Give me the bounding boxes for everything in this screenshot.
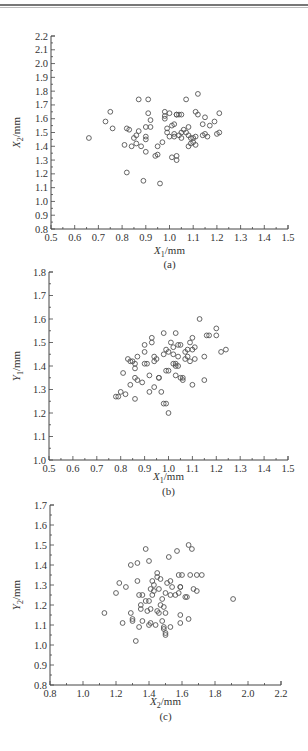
y-tick-label: 1.0 (35, 196, 48, 207)
data-point-marker (108, 109, 113, 114)
x-tick-label: 1.3 (234, 232, 247, 243)
data-point-marker (140, 619, 145, 624)
data-point-marker (202, 378, 207, 383)
data-point-marker (135, 354, 140, 359)
data-point-marker (161, 331, 166, 336)
data-point-marker (199, 573, 204, 578)
y-tick-label: 1.3 (35, 155, 48, 166)
x-tick-label: 0.9 (138, 463, 151, 474)
y-tick-label: 1.7 (34, 500, 47, 511)
data-point-marker (149, 340, 154, 345)
data-point-marker (135, 561, 140, 566)
y-tick-label: 1.2 (33, 408, 46, 419)
data-point-marker (212, 119, 217, 124)
data-point-marker (180, 573, 185, 578)
x-tick-label: 1.0 (163, 232, 176, 243)
data-point-marker (163, 611, 168, 616)
data-point-marker (143, 149, 148, 154)
data-point-marker (167, 134, 172, 139)
y-tick-label: 1.5 (33, 337, 46, 348)
data-point-marker (168, 625, 173, 630)
data-point-marker (197, 317, 202, 322)
y-axis-title: Y1/mm (10, 350, 25, 381)
x-tick-label: 0.6 (68, 232, 81, 243)
data-point-marker (137, 625, 142, 630)
data-point-marker (169, 340, 174, 345)
data-point-marker (202, 354, 207, 359)
data-point-marker (103, 119, 108, 124)
y-tick-label: 1.7 (33, 290, 46, 301)
data-point-marker (139, 144, 144, 149)
data-point-marker (128, 563, 133, 568)
data-point-marker (178, 613, 183, 618)
x-tick-label: 1.2 (210, 232, 223, 243)
data-point-marker (160, 140, 165, 145)
data-point-marker (171, 352, 176, 357)
data-point-marker (170, 155, 175, 160)
y-tick-label: 1.7 (35, 99, 48, 110)
data-point-marker (140, 380, 145, 385)
x-axis-title: X2/mm (149, 695, 181, 710)
data-point-marker (87, 136, 92, 141)
y-tick-label: 1.0 (34, 640, 47, 651)
panel-caption: (a) (163, 258, 176, 271)
data-point-marker (122, 143, 127, 148)
y-tick-label: 2.1 (35, 44, 48, 55)
scatter-panel-c: 0.81.01.21.41.61.82.02.20.80.91.01.11.21… (10, 500, 288, 724)
data-point-marker (173, 331, 178, 336)
data-point-marker (140, 593, 145, 598)
data-point-marker (147, 599, 152, 604)
data-point-marker (141, 178, 146, 183)
data-point-marker (143, 547, 148, 552)
data-point-marker (170, 585, 175, 590)
x-tick-label: 0.8 (116, 232, 129, 243)
x-tick-label: 1.2 (109, 688, 122, 699)
data-point-marker (143, 125, 148, 130)
scatter-panel-b: 0.50.60.70.80.91.01.11.21.31.41.51.01.11… (10, 267, 295, 499)
axis-lines (49, 272, 288, 460)
data-point-marker (163, 591, 168, 596)
data-point-marker (203, 115, 208, 120)
y-tick-label: 0.9 (34, 660, 47, 671)
x-tick-label: 0.9 (139, 232, 152, 243)
data-point-marker (133, 397, 138, 402)
x-tick-label: 1.5 (281, 232, 294, 243)
data-point-marker (124, 170, 129, 175)
y-tick-label: 1.2 (34, 600, 47, 611)
data-point-marker (200, 122, 205, 127)
data-point-marker (135, 579, 140, 584)
data-point-marker (196, 92, 201, 97)
x-tick-label: 1.8 (208, 688, 221, 699)
data-point-marker (133, 639, 138, 644)
x-tick-label: 1.0 (76, 688, 89, 699)
scatter-points (87, 92, 222, 186)
y-tick-label: 0.9 (35, 210, 48, 221)
data-point-marker (194, 573, 199, 578)
data-point-marker (231, 597, 236, 602)
x-axis-title: X1/mm (153, 244, 185, 259)
data-point-marker (188, 340, 193, 345)
y-tick-label: 1.0 (33, 455, 46, 466)
x-tick-label: 0.8 (114, 463, 127, 474)
y-tick-label: 1.6 (34, 520, 47, 531)
x-tick-label: 1.1 (186, 463, 199, 474)
data-point-marker (219, 350, 224, 355)
data-point-marker (214, 326, 219, 331)
data-point-marker (157, 587, 162, 592)
y-tick-label: 1.3 (33, 384, 46, 395)
x-tick-label: 1.4 (258, 232, 272, 243)
data-point-marker (190, 547, 195, 552)
x-tick-label: 0.7 (90, 463, 103, 474)
x-tick-label: 0.6 (66, 463, 79, 474)
data-point-marker (190, 335, 195, 340)
y-tick-label: 2.2 (35, 31, 48, 42)
data-point-marker (147, 559, 152, 564)
y-axis-title: Y2/mm (10, 579, 25, 610)
data-point-marker (117, 581, 122, 586)
y-tick-label: 1.1 (34, 620, 47, 631)
data-point-marker (128, 611, 133, 616)
data-point-marker (167, 111, 172, 116)
data-point-marker (168, 593, 173, 598)
data-point-marker (128, 382, 133, 387)
data-point-marker (124, 585, 129, 590)
